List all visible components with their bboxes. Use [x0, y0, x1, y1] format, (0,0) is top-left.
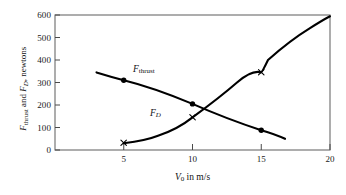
data-point-marker	[259, 128, 264, 133]
y-axis-label: Fthrust and FD, newtons	[18, 19, 29, 159]
chart-figure: 0 100 200 300 400 500 600 5 10 15 20 Fth…	[0, 0, 346, 195]
y-axis-label-conj: and	[18, 92, 28, 110]
x-axis-label: V0 in m/s	[55, 172, 330, 183]
y-axis-label-f2-sub: D	[22, 81, 30, 86]
data-point-marker	[190, 101, 195, 106]
x-tick-label-5: 5	[121, 154, 126, 164]
y-axis-label-f2: F	[18, 86, 28, 92]
y-axis-label-unit: , newtons	[18, 47, 28, 82]
curve-label-fd-sub: D	[156, 111, 161, 119]
curve-label-fd: FD	[150, 108, 161, 119]
plot-canvas	[0, 0, 346, 195]
x-tick-label-10: 10	[188, 154, 197, 164]
x-tick-label-20: 20	[325, 154, 334, 164]
curve-label-fthrust: Fthrust	[133, 64, 155, 75]
y-axis-label-f1: F	[18, 125, 28, 131]
data-point-marker	[121, 78, 126, 83]
y-axis-label-f1-sub: thrust	[22, 109, 30, 125]
x-tick-label-15: 15	[257, 154, 266, 164]
curve-label-fthrust-sub: thrust	[139, 67, 155, 75]
x-axis-label-rest: in m/s	[184, 172, 210, 182]
plot-frame	[55, 15, 330, 150]
